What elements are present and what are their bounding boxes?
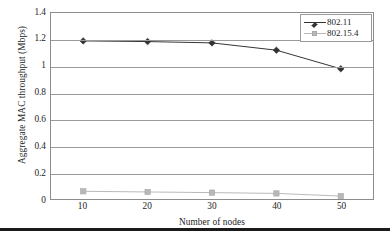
data-point-square-icon (81, 189, 86, 194)
bottom-divider (0, 228, 390, 231)
y-axis-tick: 0.8 (20, 88, 46, 97)
legend-item-802-11: 802.11 (303, 17, 368, 28)
data-point-square-icon (145, 189, 150, 194)
x-axis-tick: 50 (322, 202, 362, 211)
legend-item-802-15-4: 802.15.4 (303, 28, 368, 39)
gridline (51, 147, 373, 148)
data-point-diamond-icon (273, 47, 280, 54)
x-axis-tick: 30 (192, 202, 232, 211)
y-axis-tick: 1 (20, 61, 46, 70)
legend-key-square-icon (303, 28, 327, 39)
gridline (51, 174, 373, 175)
y-axis-tick: 1.4 (20, 8, 46, 17)
y-axis-tick: 0.2 (20, 169, 46, 178)
gridline (51, 120, 373, 121)
data-point-square-icon (338, 193, 343, 198)
legend-key-diamond-icon (303, 17, 327, 28)
x-axis-tick: 10 (62, 202, 102, 211)
legend-label: 802.11 (327, 17, 351, 28)
gridline (51, 94, 373, 95)
y-axis-tick: 0 (20, 196, 46, 205)
x-axis-tick-labels: 1020304050 (50, 202, 374, 216)
chart-figure: Aggregate MAC throughput (Mbps) 1.41.210… (0, 0, 390, 238)
data-point-diamond-icon (80, 38, 87, 45)
data-point-square-icon (274, 191, 279, 196)
gridline (51, 67, 373, 68)
x-axis-label: Number of nodes (50, 217, 374, 227)
legend-label: 802.15.4 (327, 28, 359, 39)
chart-legend: 802.11 802.15.4 (300, 14, 372, 42)
x-axis-tick: 40 (257, 202, 297, 211)
y-axis-tick: 0.6 (20, 115, 46, 124)
y-axis-tick: 0.4 (20, 142, 46, 151)
data-point-square-icon (209, 190, 214, 195)
y-axis-tick-labels: 1.41.210.80.60.40.20 (20, 0, 46, 238)
x-axis-tick: 20 (127, 202, 167, 211)
y-axis-tick: 1.2 (20, 34, 46, 43)
